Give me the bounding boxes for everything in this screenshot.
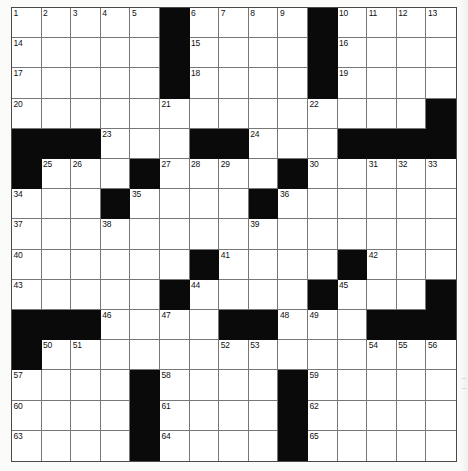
letter-cell[interactable] [397, 431, 427, 461]
letter-cell[interactable] [42, 219, 72, 249]
letter-cell[interactable] [130, 310, 160, 340]
letter-cell[interactable] [397, 401, 427, 431]
letter-cell[interactable] [160, 250, 190, 280]
letter-cell[interactable] [71, 401, 101, 431]
letter-cell[interactable] [397, 370, 427, 400]
letter-cell[interactable]: 34 [12, 189, 42, 219]
letter-cell[interactable]: 4 [101, 8, 131, 38]
letter-cell[interactable]: 8 [249, 8, 279, 38]
letter-cell[interactable]: 53 [249, 340, 279, 370]
letter-cell[interactable] [338, 189, 368, 219]
letter-cell[interactable]: 5 [130, 8, 160, 38]
letter-cell[interactable] [190, 219, 220, 249]
letter-cell[interactable]: 17 [12, 68, 42, 98]
letter-cell[interactable]: 2 [42, 8, 72, 38]
letter-cell[interactable] [190, 340, 220, 370]
letter-cell[interactable] [367, 370, 397, 400]
letter-cell[interactable] [71, 99, 101, 129]
letter-cell[interactable] [190, 401, 220, 431]
letter-cell[interactable]: 51 [71, 340, 101, 370]
letter-cell[interactable] [71, 219, 101, 249]
letter-cell[interactable]: 24 [249, 129, 279, 159]
letter-cell[interactable] [367, 431, 397, 461]
letter-cell[interactable]: 59 [308, 370, 338, 400]
letter-cell[interactable] [71, 68, 101, 98]
letter-cell[interactable] [367, 401, 397, 431]
letter-cell[interactable]: 56 [426, 340, 456, 370]
letter-cell[interactable] [130, 129, 160, 159]
letter-cell[interactable]: 45 [338, 280, 368, 310]
letter-cell[interactable] [130, 219, 160, 249]
letter-cell[interactable] [278, 340, 308, 370]
letter-cell[interactable] [426, 401, 456, 431]
letter-cell[interactable] [190, 431, 220, 461]
letter-cell[interactable]: 7 [219, 8, 249, 38]
letter-cell[interactable] [397, 250, 427, 280]
letter-cell[interactable] [338, 401, 368, 431]
letter-cell[interactable] [130, 340, 160, 370]
letter-cell[interactable]: 57 [12, 370, 42, 400]
letter-cell[interactable] [308, 250, 338, 280]
letter-cell[interactable]: 23 [101, 129, 131, 159]
letter-cell[interactable] [249, 250, 279, 280]
letter-cell[interactable] [160, 129, 190, 159]
letter-cell[interactable] [190, 189, 220, 219]
letter-cell[interactable]: 28 [190, 159, 220, 189]
letter-cell[interactable]: 38 [101, 219, 131, 249]
letter-cell[interactable]: 15 [190, 38, 220, 68]
letter-cell[interactable] [249, 159, 279, 189]
letter-cell[interactable] [338, 219, 368, 249]
letter-cell[interactable] [160, 189, 190, 219]
letter-cell[interactable] [397, 99, 427, 129]
letter-cell[interactable] [249, 431, 279, 461]
letter-cell[interactable] [71, 431, 101, 461]
letter-cell[interactable]: 63 [12, 431, 42, 461]
letter-cell[interactable] [249, 38, 279, 68]
letter-cell[interactable]: 9 [278, 8, 308, 38]
letter-cell[interactable] [367, 38, 397, 68]
letter-cell[interactable]: 32 [397, 159, 427, 189]
letter-cell[interactable] [426, 38, 456, 68]
letter-cell[interactable]: 58 [160, 370, 190, 400]
letter-cell[interactable] [42, 250, 72, 280]
letter-cell[interactable] [367, 189, 397, 219]
letter-cell[interactable] [426, 370, 456, 400]
letter-cell[interactable] [249, 401, 279, 431]
letter-cell[interactable] [338, 340, 368, 370]
letter-cell[interactable]: 54 [367, 340, 397, 370]
letter-cell[interactable] [71, 280, 101, 310]
letter-cell[interactable]: 1 [12, 8, 42, 38]
letter-cell[interactable]: 14 [12, 38, 42, 68]
letter-cell[interactable]: 21 [160, 99, 190, 129]
letter-cell[interactable]: 19 [338, 68, 368, 98]
letter-cell[interactable] [367, 68, 397, 98]
letter-cell[interactable]: 6 [190, 8, 220, 38]
letter-cell[interactable] [101, 370, 131, 400]
letter-cell[interactable]: 43 [12, 280, 42, 310]
letter-cell[interactable]: 37 [12, 219, 42, 249]
crossword-grid[interactable]: 1234567891011121314151617181920212223242… [12, 8, 456, 461]
letter-cell[interactable] [219, 99, 249, 129]
letter-cell[interactable] [338, 431, 368, 461]
letter-cell[interactable]: 47 [160, 310, 190, 340]
letter-cell[interactable]: 35 [130, 189, 160, 219]
letter-cell[interactable] [308, 189, 338, 219]
letter-cell[interactable]: 46 [101, 310, 131, 340]
letter-cell[interactable] [219, 38, 249, 68]
letter-cell[interactable] [160, 340, 190, 370]
letter-cell[interactable] [219, 431, 249, 461]
letter-cell[interactable]: 60 [12, 401, 42, 431]
letter-cell[interactable] [101, 159, 131, 189]
letter-cell[interactable] [426, 431, 456, 461]
letter-cell[interactable] [219, 189, 249, 219]
letter-cell[interactable]: 50 [42, 340, 72, 370]
letter-cell[interactable] [190, 99, 220, 129]
letter-cell[interactable] [278, 68, 308, 98]
letter-cell[interactable] [397, 68, 427, 98]
letter-cell[interactable]: 22 [308, 99, 338, 129]
letter-cell[interactable] [278, 219, 308, 249]
letter-cell[interactable] [101, 99, 131, 129]
letter-cell[interactable] [219, 401, 249, 431]
letter-cell[interactable] [249, 68, 279, 98]
letter-cell[interactable]: 10 [338, 8, 368, 38]
